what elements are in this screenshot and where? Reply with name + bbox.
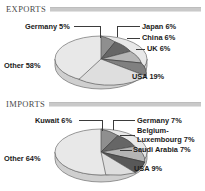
slice-label-china: China 6% xyxy=(142,34,175,43)
leader-line-china xyxy=(127,38,140,39)
leader-line-belgium xyxy=(120,135,135,136)
imports-header: IMPORTS xyxy=(6,98,201,110)
exports-header: EXPORTS xyxy=(6,3,201,15)
slice-label-germany: Germany 5% xyxy=(25,23,70,32)
slice-label-usa: USA 19% xyxy=(132,73,164,82)
leader-line-germany xyxy=(113,120,135,121)
leader-line-saudi xyxy=(120,150,132,151)
exports-title: EXPORTS xyxy=(6,5,46,14)
slice-label-belgium-luxembourg: Belgium-Luxembourg 7% xyxy=(137,127,203,144)
leader-line-kuwait-drop xyxy=(102,120,103,131)
header-rule xyxy=(49,102,201,107)
imports-section: IMPORTS Kuwait 6% Other 64% Germany 7% B… xyxy=(0,95,205,190)
leader-line-germany-drop xyxy=(100,26,101,38)
imports-title: IMPORTS xyxy=(6,100,45,109)
slice-label-germany: Germany 7% xyxy=(137,117,182,126)
slice-label-other: Other 64% xyxy=(4,155,41,164)
leader-line-uk xyxy=(136,49,145,50)
leader-line-germany-drop xyxy=(113,120,114,130)
slice-label-kuwait: Kuwait 6% xyxy=(35,117,72,126)
leader-line-japan xyxy=(117,26,140,27)
leader-line-japan-drop xyxy=(117,26,118,37)
leader-line-kuwait xyxy=(79,120,103,121)
exports-section: EXPORTS Germany 5% Other 58% Japan xyxy=(0,0,205,95)
leader-line-germany xyxy=(74,26,101,27)
slice-label-usa: USA 9% xyxy=(134,165,162,174)
slice-label-japan: Japan 6% xyxy=(142,23,176,32)
slice-label-other: Other 58% xyxy=(4,62,41,71)
slice-label-saudi-arabia: Saudi Arabia 7% xyxy=(133,146,191,155)
header-rule xyxy=(50,7,201,12)
slice-label-uk: UK 6% xyxy=(147,45,170,54)
